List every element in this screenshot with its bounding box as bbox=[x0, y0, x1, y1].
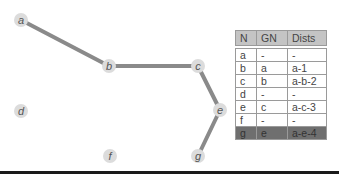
node-e: e bbox=[213, 103, 227, 117]
node-c: c bbox=[191, 59, 205, 73]
table-cell: e bbox=[236, 101, 257, 114]
svg-text:e: e bbox=[217, 104, 223, 116]
distance-table: N GN Dists a--baa-1cba-b-2d--eca-c-3f--g… bbox=[235, 30, 327, 140]
table-row: a-- bbox=[236, 49, 327, 62]
bottom-border bbox=[0, 171, 339, 174]
table-row: d-- bbox=[236, 88, 327, 101]
header-dists: Dists bbox=[288, 31, 327, 46]
svg-text:c: c bbox=[195, 60, 201, 72]
table-cell: c bbox=[257, 101, 288, 114]
table-cell: c bbox=[236, 75, 257, 88]
svg-text:d: d bbox=[18, 105, 25, 117]
node-d: d bbox=[14, 104, 28, 118]
table-cell: a bbox=[236, 49, 257, 62]
graph-canvas: abcdefg bbox=[0, 0, 230, 170]
table-header-row: N GN Dists bbox=[236, 31, 327, 46]
node-g: g bbox=[191, 149, 205, 163]
header-n: N bbox=[236, 31, 257, 46]
table-row: eca-c-3 bbox=[236, 101, 327, 114]
table-cell: a-b-2 bbox=[288, 75, 327, 88]
table-cell: - bbox=[288, 88, 327, 101]
svg-text:a: a bbox=[18, 14, 24, 26]
node-b: b bbox=[102, 59, 116, 73]
svg-text:b: b bbox=[106, 60, 112, 72]
table-cell: a-1 bbox=[288, 62, 327, 75]
node-f: f bbox=[103, 149, 117, 163]
header-gn: GN bbox=[257, 31, 288, 46]
node-a: a bbox=[14, 13, 28, 27]
table-cell: - bbox=[257, 114, 288, 127]
svg-text:g: g bbox=[195, 150, 202, 162]
table-cell: a-e-4 bbox=[288, 127, 327, 140]
edge-e-g bbox=[198, 110, 220, 156]
table-cell: d bbox=[236, 88, 257, 101]
table-cell: f bbox=[236, 114, 257, 127]
table-row: gea-e-4 bbox=[236, 127, 327, 140]
table-cell: e bbox=[257, 127, 288, 140]
table-row: cba-b-2 bbox=[236, 75, 327, 88]
table-cell: a-c-3 bbox=[288, 101, 327, 114]
table-cell: a bbox=[257, 62, 288, 75]
edge-a-b bbox=[21, 20, 109, 66]
table-cell: b bbox=[257, 75, 288, 88]
table-row: f-- bbox=[236, 114, 327, 127]
table-cell: - bbox=[257, 88, 288, 101]
table-cell: - bbox=[288, 114, 327, 127]
table-cell: b bbox=[236, 62, 257, 75]
table-row: baa-1 bbox=[236, 62, 327, 75]
table-cell: - bbox=[288, 49, 327, 62]
table-cell: - bbox=[257, 49, 288, 62]
table-cell: g bbox=[236, 127, 257, 140]
